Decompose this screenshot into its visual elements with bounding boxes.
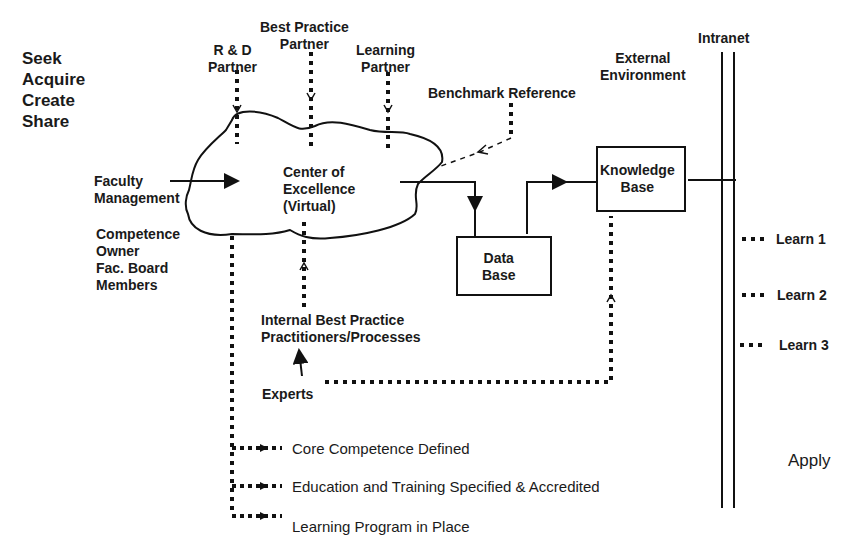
data-base-label: Data Base (482, 250, 515, 284)
apply-label: Apply (788, 450, 831, 471)
internal-best-practice-label: Internal Best Practice Practitioners/Pro… (261, 312, 421, 346)
experts-label: Experts (262, 386, 313, 403)
rd-partner-label: R & D Partner (208, 42, 257, 76)
verb-share: Share (22, 111, 85, 132)
outcome-education-training: Education and Training Specified & Accre… (292, 478, 600, 495)
outcome-core-competence: Core Competence Defined (292, 440, 470, 457)
verb-create: Create (22, 90, 85, 111)
learning-partner-label: Learning Partner (356, 42, 415, 76)
competence-owner-label: Competence Owner Fac. Board Members (96, 226, 180, 294)
faculty-management-label: Faculty Management (94, 173, 180, 207)
benchmark-reference-label: Benchmark Reference (428, 85, 576, 102)
verb-seek: Seek (22, 48, 85, 69)
intranet-label: Intranet (698, 30, 749, 47)
outcome-learning-program: Learning Program in Place (292, 518, 470, 535)
verb-acquire: Acquire (22, 69, 85, 90)
external-environment-label: External Environment (600, 50, 686, 84)
center-of-excellence-label: Center of Excellence (Virtual) (283, 164, 355, 215)
learn-2-label: Learn 2 (777, 287, 827, 304)
knowledge-base-label: Knowledge Base (600, 162, 675, 196)
learn-1-label: Learn 1 (776, 231, 826, 248)
best-practice-partner-label: Best Practice Partner (260, 19, 349, 53)
learn-3-label: Learn 3 (779, 337, 829, 354)
left-verbs: Seek Acquire Create Share (22, 48, 85, 132)
